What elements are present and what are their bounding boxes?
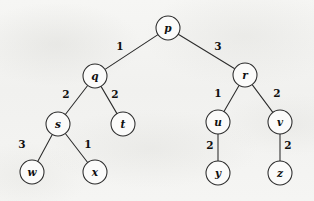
edge-weight-q-t: 2 bbox=[111, 88, 118, 100]
tree-edge-r-u bbox=[224, 85, 239, 111]
tree-node-w[interactable]: w bbox=[20, 160, 44, 184]
node-label-x: x bbox=[91, 166, 99, 178]
tree-diagram-figure: pqrstuvwxyz 1322123122 bbox=[0, 0, 314, 201]
edge-weight-s-w: 3 bbox=[18, 138, 25, 150]
nodes-group: pqrstuvwxyz bbox=[20, 16, 292, 185]
tree-node-v[interactable]: v bbox=[268, 110, 292, 134]
edge-weight-v-z: 2 bbox=[284, 139, 291, 151]
tree-edge-s-w bbox=[38, 135, 53, 162]
tree-node-t[interactable]: t bbox=[111, 112, 135, 136]
tree-node-r[interactable]: r bbox=[233, 63, 257, 87]
tree-node-q[interactable]: q bbox=[83, 64, 107, 88]
tree-graph-canvas: pqrstuvwxyz 1322123122 bbox=[0, 0, 314, 201]
edge-weight-p-q: 1 bbox=[116, 40, 123, 52]
tree-node-y[interactable]: y bbox=[206, 161, 230, 185]
tree-edge-p-q bbox=[105, 35, 158, 70]
node-label-z: z bbox=[276, 167, 284, 179]
edge-weight-u-y: 2 bbox=[206, 139, 213, 151]
tree-node-u[interactable]: u bbox=[206, 110, 230, 134]
node-label-q: q bbox=[91, 70, 98, 82]
tree-node-x[interactable]: x bbox=[83, 160, 107, 184]
node-label-t: t bbox=[121, 118, 126, 130]
node-label-p: p bbox=[164, 22, 172, 34]
edge-weight-r-u: 1 bbox=[214, 87, 221, 99]
node-label-w: w bbox=[27, 166, 37, 178]
tree-edge-p-r bbox=[178, 34, 235, 68]
edge-weight-q-s: 2 bbox=[62, 88, 69, 100]
node-label-u: u bbox=[214, 116, 222, 128]
edge-weight-r-v: 2 bbox=[273, 87, 280, 99]
tree-node-s[interactable]: s bbox=[46, 112, 70, 136]
edge-weight-s-x: 1 bbox=[84, 138, 91, 150]
edges-group bbox=[38, 34, 280, 162]
tree-edge-r-v bbox=[252, 85, 273, 113]
tree-node-p[interactable]: p bbox=[156, 16, 180, 40]
edge-weight-p-r: 3 bbox=[214, 40, 221, 52]
node-label-s: s bbox=[55, 118, 61, 130]
node-label-y: y bbox=[214, 167, 222, 179]
node-label-v: v bbox=[277, 116, 284, 128]
tree-node-z[interactable]: z bbox=[268, 161, 292, 185]
